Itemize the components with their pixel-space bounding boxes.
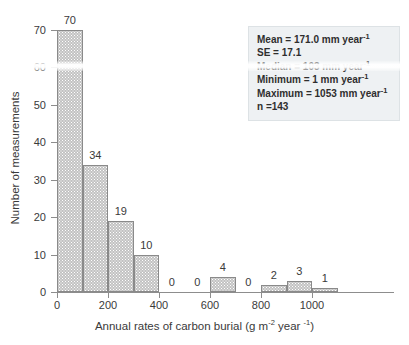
x-tick-label: 800 [241, 300, 281, 311]
x-tick-mark [261, 292, 262, 298]
histogram-bar [108, 221, 134, 292]
bar-value-label: 34 [75, 150, 115, 161]
stats-line-se: SE = 17.1 [257, 46, 399, 59]
x-tick-mark [210, 292, 211, 298]
y-tick-label: 70 [20, 25, 46, 36]
bar-value-label: 1 [305, 273, 345, 284]
x-axis-title: Annual rates of carbon burial (g m-2 yea… [0, 320, 409, 332]
histogram-bar [312, 288, 338, 292]
y-tick-label: 30 [20, 175, 46, 186]
x-tick-label: 0 [37, 300, 77, 311]
x-axis-title-superscript-2: -1 [304, 318, 311, 327]
y-tick-label: 0 [20, 287, 46, 298]
x-axis-title-superscript-1: -2 [268, 318, 275, 327]
y-axis-title: Number of measurements [9, 58, 21, 258]
y-tick-label: 60 [20, 62, 46, 73]
x-tick-label: 1000 [292, 300, 332, 311]
stats-superscript: -1 [363, 32, 370, 41]
y-tick-label: 10 [20, 250, 46, 261]
bar-value-label: 19 [101, 206, 141, 217]
x-tick-label: 600 [190, 300, 230, 311]
histogram-bar [83, 165, 109, 292]
x-tick-mark [312, 292, 313, 298]
x-tick-mark [159, 292, 160, 298]
y-tick-label: 50 [20, 100, 46, 111]
x-tick-mark [108, 292, 109, 298]
stats-line-median: Median = 103 mm year-1 [257, 60, 399, 73]
stats-superscript: -1 [363, 58, 370, 67]
stats-line-n: n =143 [257, 100, 399, 113]
histogram-figure: Number of measurements 010203040506070 0… [0, 0, 409, 345]
histogram-bar [57, 30, 83, 292]
bar-value-label: 10 [126, 240, 166, 251]
stats-line-maximum: Maximum = 1053 mm year-1 [257, 87, 399, 100]
y-tick-label: 20 [20, 212, 46, 223]
stats-superscript: -1 [381, 85, 388, 94]
bar-value-label: 70 [50, 15, 90, 26]
bar-value-label: 0 [177, 277, 217, 288]
x-tick-label: 200 [88, 300, 128, 311]
statistics-box: Mean = 171.0 mm year-1SE = 17.1Median = … [248, 26, 400, 121]
stats-line-minimum: Minimum = 1 mm year-1 [257, 73, 399, 86]
bar-value-label: 4 [203, 262, 243, 273]
stats-line-mean: Mean = 171.0 mm year-1 [257, 33, 399, 46]
stats-superscript: -1 [362, 72, 369, 81]
x-tick-label: 400 [139, 300, 179, 311]
y-tick-label: 40 [20, 137, 46, 148]
x-tick-mark [57, 292, 58, 298]
